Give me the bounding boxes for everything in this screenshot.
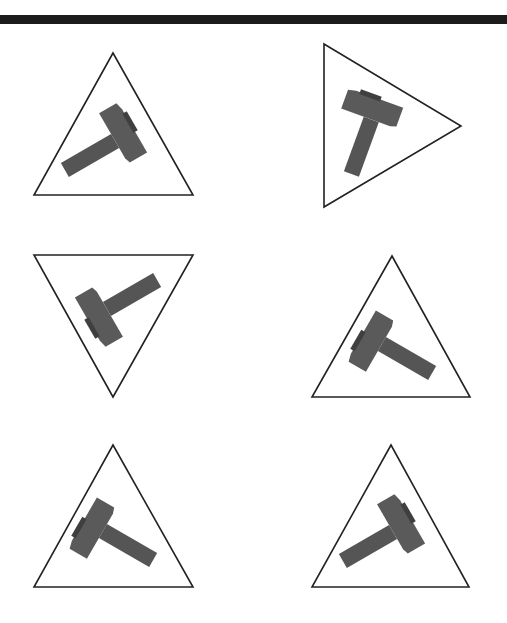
panel-3 xyxy=(34,255,193,397)
triangle-outline xyxy=(34,445,193,587)
panel-1 xyxy=(34,53,193,195)
hammer-triangles-figure xyxy=(0,0,507,623)
panel-5 xyxy=(34,445,193,588)
panel-6 xyxy=(312,445,469,587)
panel-4 xyxy=(312,256,470,401)
panel-2 xyxy=(321,44,461,207)
